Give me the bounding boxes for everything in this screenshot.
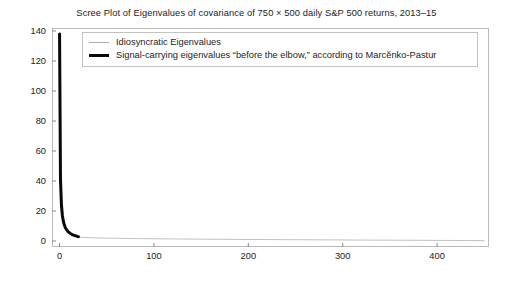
y-tick-label: 60 — [36, 146, 46, 156]
scree-plot-figure: Scree Plot of Eigenvalues of covariance … — [0, 0, 513, 282]
y-tick-label: 120 — [30, 56, 46, 66]
signal-eigenvalues-curve — [60, 34, 79, 237]
x-axis-tick-labels: 0100200300400 — [52, 251, 489, 267]
chart-legend: Idiosyncratic Eigenvalues Signal-carryin… — [82, 32, 478, 67]
legend-item-signal-carrying: Signal-carrying eigenvalues “before the … — [88, 49, 472, 62]
x-tick-label: 100 — [146, 251, 162, 261]
legend-item-label: Idiosyncratic Eigenvalues — [116, 37, 221, 48]
legend-item-label: Signal-carrying eigenvalues “before the … — [116, 50, 436, 61]
x-tick-label: 400 — [429, 251, 445, 261]
legend-item-idiosyncratic: Idiosyncratic Eigenvalues — [88, 36, 472, 49]
y-tick-label: 100 — [30, 86, 46, 96]
y-tick-label: 20 — [36, 206, 46, 216]
line-swatch-icon — [88, 42, 110, 43]
page-title: Scree Plot of Eigenvalues of covariance … — [0, 8, 513, 18]
y-tick-label: 140 — [30, 26, 46, 36]
x-tick-label: 0 — [57, 251, 62, 261]
x-tick-label: 200 — [241, 251, 257, 261]
y-axis-tick-labels: 020406080100120140 — [0, 28, 46, 247]
y-tick-label: 0 — [41, 236, 46, 246]
thick-line-swatch-icon — [88, 54, 110, 57]
x-tick-label: 300 — [335, 251, 351, 261]
y-tick-label: 40 — [36, 176, 46, 186]
y-tick-label: 80 — [36, 116, 46, 126]
idiosyncratic-eigenvalues-curve — [78, 237, 484, 241]
